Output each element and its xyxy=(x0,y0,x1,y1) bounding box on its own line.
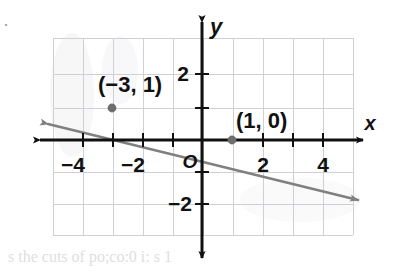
coordinate-plane-figure: −4 −2 2 4 2 −2 O y x (−3, 1) (1, 0) s th… xyxy=(0,0,401,272)
x-tick-label--4: −4 xyxy=(61,153,85,176)
scan-smudge-group xyxy=(50,33,360,222)
y-tick-label-2: 2 xyxy=(177,62,189,85)
y-tick-label--2: −2 xyxy=(168,192,192,215)
x-tick-label-4: 4 xyxy=(317,153,329,176)
x-axis-label: x xyxy=(363,112,376,134)
page-top-left-mark: · xyxy=(3,14,9,34)
x-tick-label-2: 2 xyxy=(257,153,269,176)
data-point-a xyxy=(108,104,117,113)
point-b-label: (1, 0) xyxy=(236,108,287,133)
page-bottom-ghost-text: s the cuts of po;co:0 i: s 1 xyxy=(8,248,172,266)
y-axis-label: y xyxy=(209,14,224,39)
origin-label: O xyxy=(183,151,198,172)
scanned-page-background: −4 −2 2 4 2 −2 O y x (−3, 1) (1, 0) s th… xyxy=(0,0,401,272)
data-point-b xyxy=(228,136,237,145)
x-tick-label--2: −2 xyxy=(121,153,145,176)
point-a-label: (−3, 1) xyxy=(98,72,162,97)
